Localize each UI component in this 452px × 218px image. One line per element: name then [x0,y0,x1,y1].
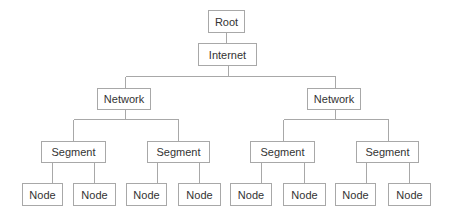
network-label: Network [104,93,144,105]
segment-label: Segment [51,146,95,158]
internet-label: Internet [209,49,246,61]
segment-box: Segment [41,141,106,163]
network-label: Network [314,93,354,105]
node-label: Node [29,189,55,201]
node-box: Node [388,183,431,206]
node-label: Node [186,189,212,201]
segment-box: Segment [250,141,315,163]
node-box: Node [230,183,272,206]
network-box-left: Network [97,88,151,110]
segment-label: Segment [260,146,304,158]
node-box: Node [22,183,63,206]
segment-box: Segment [147,141,210,163]
segment-label: Segment [156,146,200,158]
segment-box: Segment [356,141,419,163]
network-box-right: Network [307,88,361,110]
node-label: Node [238,189,264,201]
root-label: Root [215,16,238,28]
node-label: Node [342,189,368,201]
node-box: Node [335,183,376,206]
node-label: Node [81,189,107,201]
node-box: Node [126,183,167,206]
node-box: Node [73,183,116,206]
node-label: Node [396,189,422,201]
internet-box: Internet [198,43,257,66]
root-box: Root [208,10,245,33]
node-label: Node [133,189,159,201]
node-box: Node [178,183,221,206]
node-label: Node [291,189,317,201]
node-box: Node [283,183,326,206]
segment-label: Segment [365,146,409,158]
